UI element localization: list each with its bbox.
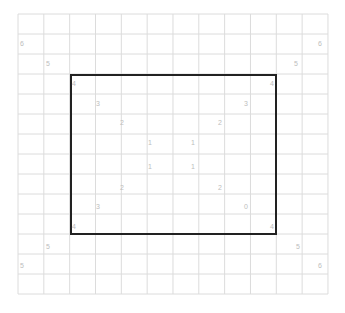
cell-label: 6 bbox=[318, 40, 322, 47]
cell-label: 1 bbox=[148, 139, 152, 146]
cell-label: 5 bbox=[296, 243, 300, 250]
cell-label: 2 bbox=[218, 184, 222, 191]
cell-label: 4 bbox=[72, 223, 76, 230]
cell-label: 1 bbox=[191, 139, 195, 146]
cell-label: 3 bbox=[96, 203, 100, 210]
cell-label: 5 bbox=[46, 243, 50, 250]
cell-label: 5 bbox=[20, 262, 24, 269]
cell-label: 1 bbox=[148, 163, 152, 170]
cell-label: 1 bbox=[191, 163, 195, 170]
cell-label: 5 bbox=[46, 60, 50, 67]
cell-label: 4 bbox=[72, 80, 76, 87]
cell-label: 2 bbox=[120, 184, 124, 191]
cell-label: 4 bbox=[270, 223, 274, 230]
cell-label: 4 bbox=[270, 80, 274, 87]
cell-label: 5 bbox=[294, 60, 298, 67]
cell-label: 3 bbox=[96, 100, 100, 107]
cell-label: 2 bbox=[120, 119, 124, 126]
cell-label: 6 bbox=[20, 40, 24, 47]
cell-label: 2 bbox=[218, 119, 222, 126]
cell-label: 0 bbox=[244, 203, 248, 210]
cell-label: 3 bbox=[244, 100, 248, 107]
highlight-rectangle bbox=[70, 74, 277, 235]
cell-label: 6 bbox=[318, 262, 322, 269]
